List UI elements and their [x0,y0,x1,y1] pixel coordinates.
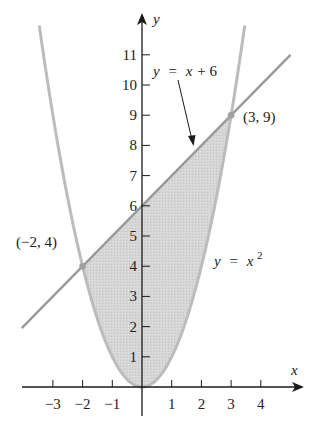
x-tick-label: −3 [45,396,61,412]
point-label-right: (3, 9) [243,109,276,126]
x-axis-label: x [290,362,298,378]
line-equation-label: y = x+ 6 [151,63,218,79]
y-tick-label: 10 [122,77,137,93]
y-tick-label: 8 [130,137,138,153]
y-tick-label: 11 [123,47,137,63]
arrowhead-icon [188,135,196,146]
point-label-left: (−2, 4) [16,234,57,251]
y-tick-label: 2 [130,319,138,335]
shaded-region [83,115,232,387]
label-pointer-arrow [178,80,196,146]
x-tick-label: 4 [257,396,265,412]
y-tick-label: 1 [130,349,138,365]
x-tick-label: 2 [198,396,206,412]
parabola-equation-label: y = x 2 [212,249,263,269]
x-tick-label: −2 [75,396,91,412]
y-tick-label: 7 [130,168,138,184]
y-tick-label: 3 [130,288,138,304]
intersection-point-left [79,263,86,270]
y-tick-label: 4 [130,258,138,274]
x-tick-label: 1 [168,396,176,412]
region-between-curves-diagram: x −3−2−11234 y 1234567891011 (−2, 4) (3,… [0,0,316,429]
x-tick-label: −1 [104,396,120,412]
y-tick-label: 5 [130,228,138,244]
y-axis-label: y [151,11,160,27]
y-tick-label: 9 [130,107,138,123]
x-axis-ticks: −3−2−11234 [45,380,265,412]
intersection-point-right [228,112,235,119]
x-tick-label: 3 [227,396,235,412]
y-tick-label: 6 [130,198,138,214]
